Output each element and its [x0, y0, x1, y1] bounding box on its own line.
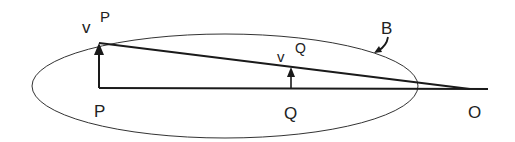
velocity-diagram: v P v Q P Q O B: [0, 0, 515, 142]
velocity-p-symbol: v: [82, 18, 91, 37]
body-b-label: B: [381, 19, 392, 38]
velocity-q-arrowhead-icon: [287, 67, 295, 77]
baseline: [99, 88, 488, 89]
tip-line: [99, 43, 470, 89]
point-p-label: P: [94, 102, 105, 121]
velocity-p-superscript: P: [100, 8, 110, 25]
velocity-q-superscript: Q: [295, 40, 306, 56]
velocity-p-arrowhead-icon: [94, 43, 104, 55]
point-o-label: O: [468, 103, 481, 122]
velocity-q-symbol: v: [277, 48, 285, 65]
point-q-label: Q: [284, 104, 297, 123]
body-ellipse: [32, 34, 418, 138]
